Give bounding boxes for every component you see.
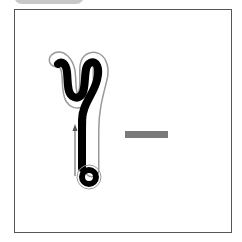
glyph-loop <box>82 170 96 184</box>
handwriting-glyph <box>0 0 242 242</box>
dash-bar <box>125 131 168 138</box>
canvas <box>0 0 242 242</box>
direction-arrow-icon <box>73 124 78 176</box>
